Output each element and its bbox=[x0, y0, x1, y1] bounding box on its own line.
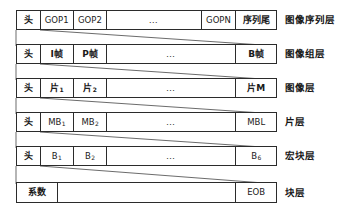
cell-slice-2-subscript: 2 bbox=[93, 87, 97, 93]
row-block-layer: 系数 EOB bbox=[16, 182, 277, 203]
cell-mbl: MBL bbox=[236, 113, 276, 131]
cell-sequence-ellipsis: … bbox=[107, 11, 201, 29]
cell-sequence-header: 头 bbox=[17, 11, 41, 29]
cell-i-frame: I帧 bbox=[41, 45, 74, 63]
label-block-layer: 块层 bbox=[285, 188, 305, 198]
cell-mb-1-subscript: 1 bbox=[62, 121, 66, 127]
cell-block-1-text: B bbox=[52, 152, 58, 161]
cell-block-2: B2 bbox=[74, 147, 108, 165]
cell-block-2-subscript: 2 bbox=[91, 155, 95, 161]
cell-block-body bbox=[58, 183, 237, 202]
cell-gop-header: 头 bbox=[17, 45, 41, 63]
cell-gopn: GOPN bbox=[202, 11, 237, 29]
cell-slice-1-text: 片 bbox=[50, 84, 59, 93]
cell-macroblock-ellipsis: … bbox=[107, 147, 236, 165]
cell-coefficients: 系数 bbox=[17, 183, 58, 202]
cell-eob: EOB bbox=[236, 183, 276, 202]
cell-slice-m: 片M bbox=[236, 79, 276, 97]
row-macroblock-layer: 头 B1 B2 … B6 bbox=[16, 146, 277, 166]
cell-slice-2-text: 片 bbox=[83, 84, 92, 93]
cell-block-n: B6 bbox=[236, 147, 276, 165]
label-macroblock-layer: 宏块层 bbox=[285, 151, 315, 161]
cell-mb-2-text: MB bbox=[81, 118, 94, 127]
cell-sequence-end: 序列尾 bbox=[236, 11, 276, 29]
cell-block-n-subscript: 6 bbox=[257, 155, 261, 161]
cell-mb-1: MB1 bbox=[41, 113, 74, 131]
cell-picture-header: 头 bbox=[17, 79, 41, 97]
row-sequence-layer: 头 GOP1 GOP2 … GOPN 序列尾 bbox=[16, 10, 277, 30]
cell-slice-header: 头 bbox=[17, 113, 41, 131]
cell-block-1: B1 bbox=[41, 147, 74, 165]
cell-gop-ellipsis: … bbox=[107, 45, 236, 63]
label-sequence-layer: 图像序列层 bbox=[285, 15, 335, 25]
cell-slice-2: 片2 bbox=[74, 79, 108, 97]
row-picture-layer: 头 片1 片2 … 片M bbox=[16, 78, 277, 98]
label-slice-layer: 片层 bbox=[285, 117, 305, 127]
cell-mb-1-text: MB bbox=[48, 118, 61, 127]
row-gop-layer: 头 I帧 P帧 … B帧 bbox=[16, 44, 277, 64]
cell-block-1-subscript: 1 bbox=[58, 155, 62, 161]
label-gop-layer: 图像组层 bbox=[285, 49, 325, 59]
cell-p-frame: P帧 bbox=[74, 45, 108, 63]
cell-gop1: GOP1 bbox=[41, 11, 74, 29]
cell-slice-ellipsis: … bbox=[107, 113, 236, 131]
cell-block-n-text: B bbox=[251, 152, 257, 161]
mpeg-bitstream-layer-diagram: 头 GOP1 GOP2 … GOPN 序列尾 图像序列层 头 I帧 P帧 … B… bbox=[0, 0, 351, 216]
label-picture-layer: 图像层 bbox=[285, 83, 315, 93]
cell-gop2: GOP2 bbox=[74, 11, 108, 29]
cell-slice-1-subscript: 1 bbox=[59, 87, 63, 93]
cell-block-2-text: B bbox=[85, 152, 91, 161]
cell-mb-2-subscript: 2 bbox=[95, 121, 99, 127]
row-slice-layer: 头 MB1 MB2 … MBL bbox=[16, 112, 277, 132]
cell-mb-2: MB2 bbox=[74, 113, 108, 131]
cell-slice-1: 片1 bbox=[41, 79, 74, 97]
cell-picture-ellipsis: … bbox=[107, 79, 236, 97]
cell-b-frame: B帧 bbox=[236, 45, 276, 63]
cell-macroblock-header: 头 bbox=[17, 147, 41, 165]
